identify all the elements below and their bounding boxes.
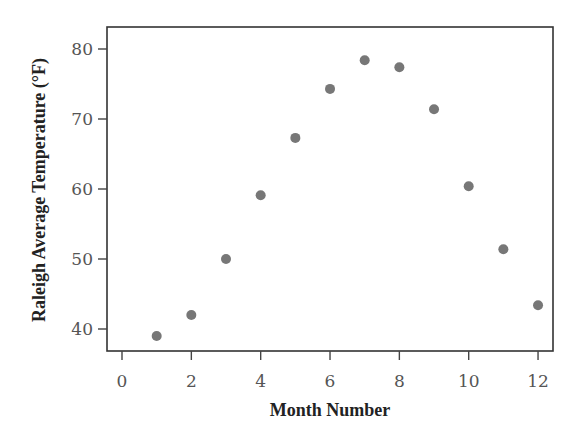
y-tick-label: 50 (71, 249, 93, 269)
y-tick-label: 80 (71, 39, 93, 59)
y-tick-label: 70 (71, 109, 93, 129)
data-point (360, 55, 370, 65)
data-point (221, 254, 231, 264)
data-point (394, 62, 404, 72)
data-points (152, 55, 543, 341)
data-point (533, 300, 543, 310)
scatter-chart: 4050607080 024681012 Month Number Raleig… (0, 0, 579, 439)
x-tick-label: 0 (117, 371, 128, 391)
x-axis-title: Month Number (270, 400, 391, 420)
y-axis: 4050607080 (71, 39, 107, 339)
x-tick-label: 8 (394, 371, 405, 391)
data-point (290, 133, 300, 143)
y-tick-label: 60 (71, 179, 93, 199)
data-point (325, 84, 335, 94)
x-tick-label: 12 (527, 371, 549, 391)
x-tick-label: 4 (255, 371, 266, 391)
data-point (429, 104, 439, 114)
data-point (256, 190, 266, 200)
x-tick-label: 6 (325, 371, 336, 391)
x-tick-label: 2 (186, 371, 197, 391)
x-tick-label: 10 (458, 371, 480, 391)
y-axis-title: Raleigh Average Temperature (°F) (29, 58, 50, 322)
y-tick-label: 40 (71, 319, 93, 339)
data-point (464, 181, 474, 191)
data-point (186, 310, 196, 320)
data-point (498, 244, 508, 254)
x-axis: 024681012 (117, 351, 549, 391)
data-point (152, 331, 162, 341)
plot-frame (107, 27, 553, 351)
